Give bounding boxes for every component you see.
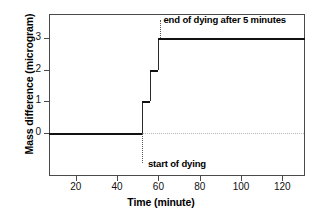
x-axis-title: Time (minute) — [0, 196, 322, 208]
data-step-plateau — [49, 133, 142, 135]
x-tick-label: 100 — [221, 181, 261, 192]
data-step-plateau — [142, 101, 150, 103]
data-step-riser — [158, 38, 159, 70]
x-tick-label: 60 — [138, 181, 178, 192]
data-step-riser — [150, 70, 151, 102]
chart-annotation: end of dying after 5 minutes — [163, 14, 285, 25]
chart-annotation: start of dying — [148, 158, 206, 169]
y-tick-label: 3 — [26, 31, 41, 42]
x-tick-label: 40 — [97, 181, 137, 192]
chart-container: Mass difference (microgram) 0123 2040608… — [0, 0, 322, 216]
y-tick-label: 1 — [26, 94, 41, 105]
x-tick-label: 80 — [180, 181, 220, 192]
y-axis-title: Mass difference (microgram) — [23, 0, 35, 169]
x-tick-label: 20 — [56, 181, 96, 192]
annotation-leader-line — [160, 20, 161, 37]
y-tick-label: 0 — [26, 126, 41, 137]
annotation-leader-line — [142, 133, 143, 163]
y-tick-label: 2 — [26, 63, 41, 74]
data-step-plateau — [150, 70, 158, 72]
x-tick-label: 120 — [262, 181, 302, 192]
data-step-riser — [142, 101, 143, 133]
data-step-plateau — [158, 38, 305, 40]
